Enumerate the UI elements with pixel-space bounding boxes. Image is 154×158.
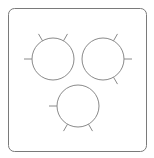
tick-mark <box>64 34 68 41</box>
tick-mark <box>64 124 68 131</box>
tick-mark <box>89 124 93 131</box>
circles-group <box>24 34 132 131</box>
circle-top-right <box>82 34 132 84</box>
circle <box>32 38 74 80</box>
diagram-canvas <box>0 0 154 158</box>
circle-bottom <box>49 85 99 131</box>
circle <box>82 38 124 80</box>
circle-top-left <box>24 34 74 80</box>
tick-mark <box>114 34 118 41</box>
tick-mark <box>39 34 43 41</box>
tick-mark <box>114 77 118 84</box>
circle <box>57 85 99 127</box>
frame-border <box>9 9 147 152</box>
